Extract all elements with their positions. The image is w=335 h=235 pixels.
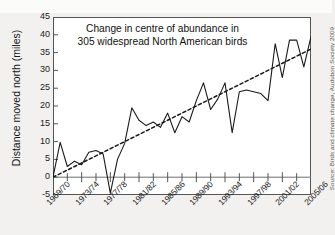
x-tick-label: 1973/74 <box>73 179 101 207</box>
x-tick-label: 1969/70 <box>44 179 72 207</box>
x-tick-label: 1981/82 <box>130 179 158 207</box>
x-tick-label: 1997/98 <box>245 179 273 207</box>
x-tick-label: 2001/02 <box>273 179 301 207</box>
x-tick-label: 1993/94 <box>216 179 244 207</box>
chart-annotation-line-2: 305 widespread North American birds <box>60 35 265 48</box>
chart-annotation-line-1: Change in centre of abundance in <box>60 22 265 35</box>
x-tick-label: 1985/86 <box>159 179 187 207</box>
x-tick-label: 1977/78 <box>101 179 129 207</box>
x-tick-label: 1989/90 <box>187 179 215 207</box>
chart-annotation: Change in centre of abundance in 305 wid… <box>60 22 265 48</box>
x-tick-label: 2005/06 <box>302 179 330 207</box>
